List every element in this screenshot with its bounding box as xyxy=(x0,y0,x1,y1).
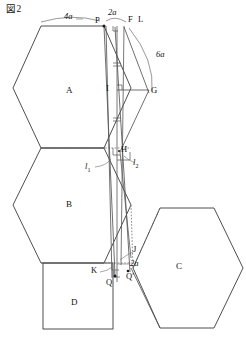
line-label-l1: l1 xyxy=(85,162,90,173)
segment-p-to-k xyxy=(106,26,112,278)
point-label-i: I xyxy=(106,84,109,93)
point-label-p: P xyxy=(95,16,100,25)
point-label-l: L xyxy=(138,15,143,24)
point-label-g: G xyxy=(151,86,157,95)
point-label-q-prime: Q′ xyxy=(126,272,134,281)
region-label-d: D xyxy=(71,298,78,307)
region-label-b: B xyxy=(66,200,72,209)
geometry-canvas xyxy=(0,0,246,339)
measurement-4a: 4a xyxy=(64,12,73,21)
region-label-a: A xyxy=(66,86,73,95)
point-dot-q xyxy=(114,275,117,278)
point-label-h: H xyxy=(121,145,127,154)
arc-2a-top xyxy=(106,18,126,22)
point-label-j: J xyxy=(133,245,136,254)
measurement-2a-top: 2a xyxy=(108,8,117,17)
line-label-l2: l2 xyxy=(133,158,138,169)
leader-k xyxy=(100,267,112,272)
region-label-c: C xyxy=(176,262,182,271)
point-label-q: Q xyxy=(106,278,112,287)
point-label-k: K xyxy=(91,266,97,275)
segment-l-to-g xyxy=(124,27,149,93)
hexagon-c-outline xyxy=(133,208,243,328)
arc-6a xyxy=(129,28,152,92)
segment-g-to-c-corner xyxy=(131,268,160,328)
point-label-f: F xyxy=(128,15,133,24)
right-angle-marker-i xyxy=(117,85,122,90)
point-dot-p xyxy=(103,25,106,28)
measurement-6a: 6a xyxy=(156,50,165,59)
measurement-2a-bottom: 2a xyxy=(130,259,139,268)
leader-l1 xyxy=(95,159,111,167)
point-dot-h xyxy=(118,150,120,152)
figure-title: 図2 xyxy=(6,5,22,15)
segment-g-to-h xyxy=(120,90,149,152)
figure-2-diagram: 図2 A B C D P F L G I H J K Q Q′ 4a 2a 6a… xyxy=(0,0,246,339)
square-d-outline xyxy=(43,263,113,329)
